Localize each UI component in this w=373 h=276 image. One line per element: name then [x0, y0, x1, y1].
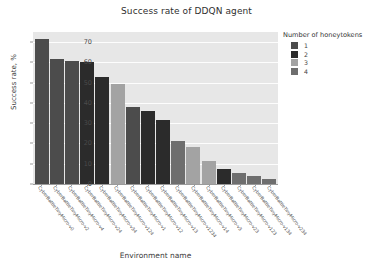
y-tick-label: 20 — [68, 139, 92, 147]
y-tick-label: 40 — [68, 99, 92, 107]
legend-entry-label: 2 — [304, 51, 308, 58]
y-tick-label: 50 — [68, 79, 92, 87]
legend-color-swatch — [291, 42, 298, 49]
x-axis-label: Environment name — [33, 251, 278, 260]
bar — [156, 120, 170, 184]
legend-entries: 1234 — [283, 42, 373, 75]
bar — [217, 169, 231, 184]
bar — [186, 147, 200, 184]
legend-entry-label: 4 — [304, 68, 308, 75]
chart-title: Success rate of DDQN agent — [0, 6, 373, 16]
bar — [35, 39, 49, 184]
bar — [171, 141, 185, 184]
chart-legend: Number of honeytokens 1234 — [283, 31, 373, 76]
y-tick-label: 70 — [68, 38, 92, 46]
legend-entry[interactable]: 2 — [291, 51, 373, 58]
y-axis-label: Success rate, % — [10, 42, 18, 122]
y-tick-mark — [30, 143, 33, 144]
legend-color-swatch — [291, 68, 298, 75]
legend-color-swatch — [291, 59, 298, 66]
bar — [141, 111, 155, 184]
bar — [202, 161, 216, 184]
y-tick-label: 60 — [68, 58, 92, 66]
legend-entry-label: 3 — [304, 59, 308, 66]
y-tick-mark — [30, 102, 33, 103]
legend-entry[interactable]: 1 — [291, 42, 373, 49]
chart-figure: Success rate of DDQN agent 0102030405060… — [0, 0, 373, 276]
bar — [95, 77, 109, 184]
bar — [232, 173, 246, 184]
y-tick-label: 10 — [68, 160, 92, 168]
y-tick-mark — [30, 82, 33, 83]
x-axis-tick-labels: CyberBattleTinyMicro-v0CyberBattleTinyMi… — [33, 185, 278, 247]
y-tick-mark — [30, 62, 33, 63]
bar — [247, 176, 261, 184]
legend-color-swatch — [291, 51, 298, 58]
bar — [126, 107, 140, 184]
y-tick-mark — [30, 42, 33, 43]
legend-entry[interactable]: 3 — [291, 59, 373, 66]
y-tick-mark — [30, 123, 33, 124]
bar — [50, 59, 64, 184]
legend-entry[interactable]: 4 — [291, 68, 373, 75]
legend-title: Number of honeytokens — [283, 31, 373, 39]
y-tick-mark — [30, 163, 33, 164]
legend-entry-label: 1 — [304, 42, 308, 49]
bar — [111, 84, 125, 184]
y-tick-label: 30 — [68, 119, 92, 127]
